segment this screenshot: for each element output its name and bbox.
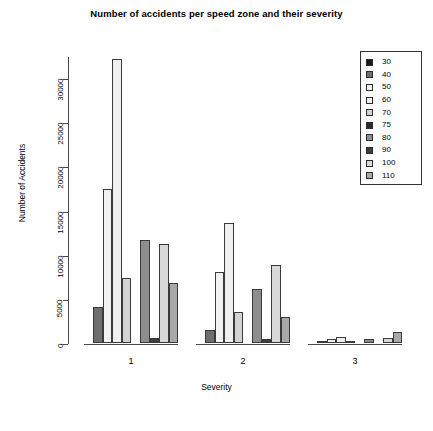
bar bbox=[224, 223, 233, 343]
legend-swatch-icon bbox=[366, 134, 373, 141]
legend-item-80: 80 bbox=[361, 132, 421, 145]
bar bbox=[150, 338, 159, 343]
y-axis-tick-label: 20000 bbox=[30, 162, 60, 172]
chart-title: Number of accidents per speed zone and t… bbox=[0, 8, 433, 19]
bar bbox=[252, 289, 261, 343]
y-axis-tick-label: 30000 bbox=[30, 74, 60, 84]
legend-swatch-icon bbox=[366, 122, 373, 129]
y-axis-tick-label-text: 20000 bbox=[56, 167, 65, 189]
bar bbox=[383, 338, 392, 343]
bar bbox=[281, 317, 290, 343]
bar bbox=[346, 341, 355, 343]
legend-swatch-icon bbox=[366, 172, 373, 179]
bar bbox=[262, 339, 271, 343]
bar bbox=[103, 189, 112, 343]
y-axis-tick-label: 25000 bbox=[30, 118, 60, 128]
y-axis-tick-label-text: 30000 bbox=[56, 79, 65, 101]
legend-item-label: 30 bbox=[382, 58, 391, 66]
bar bbox=[169, 283, 178, 343]
legend-item-60: 60 bbox=[361, 94, 421, 107]
legend-item-30: 30 bbox=[361, 56, 421, 69]
legend-item-70: 70 bbox=[361, 106, 421, 119]
y-axis-tick-label: 0 bbox=[30, 339, 60, 349]
y-axis-tick-label: 5000 bbox=[30, 295, 60, 305]
legend-item-50: 50 bbox=[361, 81, 421, 94]
bar bbox=[271, 265, 280, 343]
x-axis-segment bbox=[308, 344, 402, 345]
bar bbox=[215, 272, 224, 343]
legend-item-label: 50 bbox=[382, 83, 391, 91]
legend: 3040506070758090100110 bbox=[360, 51, 422, 185]
legend-swatch-icon bbox=[366, 84, 373, 91]
y-axis-tick-label-text: 10000 bbox=[56, 255, 65, 277]
bar bbox=[393, 332, 402, 343]
x-axis-group-label: 2 bbox=[228, 356, 258, 366]
y-axis-tick-label-text: 0 bbox=[56, 344, 65, 348]
bar bbox=[112, 59, 121, 343]
x-axis-title: Severity bbox=[0, 382, 433, 392]
bar bbox=[140, 240, 149, 343]
bar bbox=[234, 312, 243, 343]
y-axis-tick-label: 10000 bbox=[30, 251, 60, 261]
bar bbox=[159, 244, 168, 343]
legend-item-90: 90 bbox=[361, 144, 421, 157]
x-axis-group-label: 1 bbox=[116, 356, 146, 366]
bar bbox=[336, 337, 345, 343]
bar bbox=[93, 307, 102, 343]
y-axis-title-text: Number of Accidents bbox=[17, 123, 27, 243]
x-axis-segment bbox=[84, 344, 178, 345]
legend-item-label: 110 bbox=[382, 172, 395, 180]
x-axis-segment bbox=[196, 344, 290, 345]
bar bbox=[205, 330, 214, 343]
bar bbox=[327, 339, 336, 343]
legend-item-label: 70 bbox=[382, 109, 391, 117]
bar bbox=[364, 339, 373, 343]
chart-root: Number of accidents per speed zone and t… bbox=[0, 0, 433, 431]
legend-item-label: 60 bbox=[382, 96, 391, 104]
bar bbox=[317, 341, 326, 343]
legend-item-label: 100 bbox=[382, 159, 395, 167]
legend-item-75: 75 bbox=[361, 119, 421, 132]
legend-swatch-icon bbox=[366, 160, 373, 167]
x-axis-group-label: 3 bbox=[340, 356, 370, 366]
bar bbox=[122, 278, 131, 343]
legend-swatch-icon bbox=[366, 59, 373, 66]
legend-swatch-icon bbox=[366, 71, 373, 78]
legend-item-110: 110 bbox=[361, 169, 421, 182]
y-axis-tick-label: 15000 bbox=[30, 207, 60, 217]
legend-item-label: 75 bbox=[382, 121, 391, 129]
y-axis-line bbox=[68, 57, 69, 344]
legend-item-label: 40 bbox=[382, 71, 391, 79]
legend-item-label: 90 bbox=[382, 146, 391, 154]
legend-item-100: 100 bbox=[361, 157, 421, 170]
legend-item-label: 80 bbox=[382, 134, 391, 142]
legend-swatch-icon bbox=[366, 109, 373, 116]
legend-item-40: 40 bbox=[361, 69, 421, 82]
y-axis-tick-label-text: 25000 bbox=[56, 123, 65, 145]
legend-swatch-icon bbox=[366, 97, 373, 104]
y-axis-tick-label-text: 5000 bbox=[56, 299, 65, 317]
legend-swatch-icon bbox=[366, 147, 373, 154]
y-axis-tick-label-text: 15000 bbox=[56, 211, 65, 233]
